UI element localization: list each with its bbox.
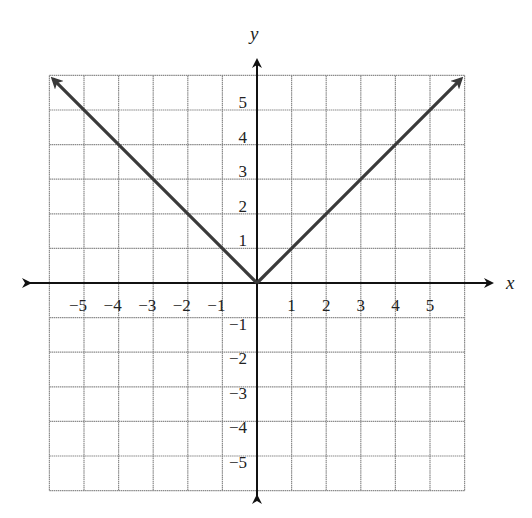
x-tick-label: −1 (207, 296, 225, 315)
y-tick-label: −2 (229, 349, 247, 368)
x-tick-label: −5 (69, 296, 87, 315)
x-tick-label: −4 (104, 296, 123, 315)
x-tick-label: 2 (322, 296, 331, 315)
x-tick-label: 5 (426, 296, 435, 315)
y-tick-label: −4 (229, 418, 248, 437)
axes: x y (30, 23, 515, 496)
y-tick-label: 5 (239, 93, 248, 112)
x-axis-label: x (505, 272, 515, 293)
y-tick-label: 2 (239, 197, 248, 216)
x-tick-label: −2 (173, 296, 191, 315)
y-tick-label: 4 (239, 128, 248, 147)
y-tick-label: −5 (229, 453, 247, 472)
y-tick-label: −1 (229, 315, 247, 334)
y-tick-label: 1 (239, 231, 248, 250)
x-tick-label: 1 (287, 296, 296, 315)
y-tick-label: −3 (229, 384, 247, 403)
x-tick-label: 3 (357, 296, 366, 315)
y-tick-label: 3 (239, 162, 248, 181)
x-tick-label: −3 (138, 296, 156, 315)
absolute-value-graph: x y −5−4−3−2−11234554321−1−2−3−4−5 (0, 0, 532, 518)
x-tick-label: 4 (391, 296, 400, 315)
y-axis-label: y (248, 23, 259, 44)
